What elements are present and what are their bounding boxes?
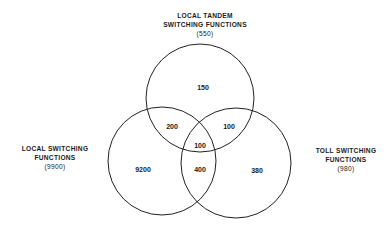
tandem-total: (550) bbox=[140, 29, 270, 38]
region-all-three: 100 bbox=[194, 142, 206, 149]
tandem-title-line-2: SWITCHING FUNCTIONS bbox=[140, 20, 270, 29]
region-local-toll: 400 bbox=[194, 166, 206, 173]
tandem-title-line-1: LOCAL TANDEM bbox=[140, 11, 270, 20]
local-circle bbox=[108, 107, 216, 215]
venn-diagram: LOCAL TANDEM SWITCHING FUNCTIONS (550) L… bbox=[0, 0, 392, 231]
region-tandem-toll: 100 bbox=[223, 123, 235, 130]
toll-title-line-2: FUNCTIONS bbox=[300, 155, 392, 164]
toll-total: (980) bbox=[300, 164, 392, 173]
local-set-label: LOCAL SWITCHING FUNCTIONS (9900) bbox=[5, 144, 105, 171]
local-title-line-1: LOCAL SWITCHING bbox=[5, 144, 105, 153]
local-title-line-2: FUNCTIONS bbox=[5, 153, 105, 162]
toll-title-line-1: TOLL SWITCHING bbox=[300, 146, 392, 155]
region-tandem-only: 150 bbox=[197, 84, 209, 91]
local-total: (9900) bbox=[5, 162, 105, 171]
tandem-circle bbox=[146, 44, 254, 152]
tandem-set-label: LOCAL TANDEM SWITCHING FUNCTIONS (550) bbox=[140, 11, 270, 38]
region-toll-only: 380 bbox=[251, 167, 263, 174]
region-local-only: 9200 bbox=[135, 166, 151, 173]
region-local-tandem: 200 bbox=[166, 123, 178, 130]
toll-set-label: TOLL SWITCHING FUNCTIONS (980) bbox=[300, 146, 392, 173]
